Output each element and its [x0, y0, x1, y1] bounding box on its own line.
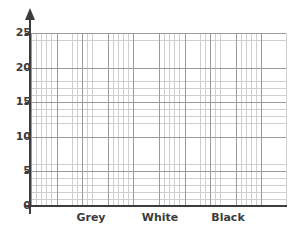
x-category-label-white: White — [142, 212, 178, 224]
bar-chart-graph-paper: 25 20 15 10 5 0 Grey White Black — [0, 0, 292, 243]
x-category-label-black: Black — [211, 212, 244, 224]
x-axis-category-labels: Grey White Black — [0, 0, 292, 243]
x-category-label-grey: Grey — [76, 212, 105, 224]
